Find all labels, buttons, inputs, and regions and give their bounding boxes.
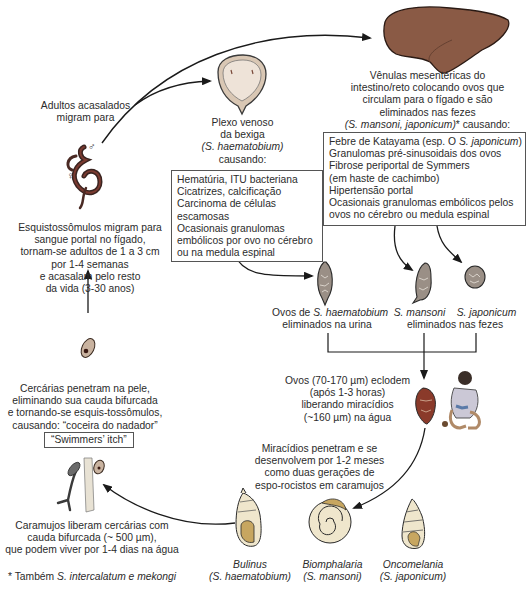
miracidia-line: espo-rocistos em caramujos bbox=[252, 480, 387, 492]
eggs-urine-line: eliminados na urina bbox=[272, 319, 382, 331]
snail-species: (S. haematobium) bbox=[209, 571, 291, 582]
miracidia-line: Miracídios penetram e se bbox=[252, 443, 387, 455]
liver-icon bbox=[384, 7, 509, 73]
schistosomula-line: Esquistossômulos migram para bbox=[12, 222, 168, 234]
footnote-prefix: * Também bbox=[8, 571, 57, 582]
mesenteric-effect-item: Ocasionais granulomas embólicos pelos bbox=[329, 197, 520, 209]
adults-line-2: migram para bbox=[38, 112, 133, 124]
bladder-effects-box: Hematúria, ITU bacteriana Cicatrizes, ca… bbox=[171, 170, 323, 262]
bladder-effect-item: Hematúria, ITU bacteriana bbox=[177, 174, 317, 186]
bladder-effect-item: Cicatrizes, calcificação bbox=[177, 186, 317, 198]
adults-line-1: Adultos acasalados bbox=[38, 100, 133, 112]
mesenteric-line: eliminados nas fezes bbox=[330, 107, 525, 119]
eggs-japonicum-species: S. japonicum bbox=[457, 307, 517, 318]
bladder-causing: causando: bbox=[195, 154, 290, 166]
bladder-effect-item: Ocasionais granulomas bbox=[177, 223, 317, 235]
egg-japonicum-icon bbox=[465, 266, 485, 288]
arrow-adults-to-bladder bbox=[135, 81, 210, 105]
egg-haematobium-icon bbox=[318, 262, 333, 305]
egg-bracket bbox=[328, 333, 476, 352]
schistosomula-line: e acasalam pelo resto bbox=[12, 271, 168, 283]
mesenteric-effects-box: Febre de Katayama (esp. O S. japonicum) … bbox=[323, 132, 526, 226]
female-symbol: ♀ bbox=[67, 170, 75, 182]
bladder-line-2: da bexiga bbox=[195, 129, 290, 141]
katayama-suffix: ) bbox=[518, 136, 521, 147]
hatch-line: liberando miracídios bbox=[280, 399, 415, 411]
arrow-box-to-japonicum-egg bbox=[437, 226, 461, 262]
egg-mansoni-icon bbox=[413, 263, 431, 303]
bladder-effect-item: ou na medula espinal bbox=[177, 247, 317, 259]
bladder-effect-item: embólicos por ovo no cérebro bbox=[177, 235, 317, 247]
miracidia-line: desenvolvem por 1-2 meses bbox=[252, 455, 387, 467]
schistosomula-line: sangue portal no fígado, bbox=[12, 234, 168, 246]
mesenteric-causing: * causando: bbox=[456, 119, 510, 130]
miracidia-label: Miracídios penetram e se desenvolvem por… bbox=[252, 443, 387, 492]
snail-genus: Bulinus bbox=[233, 559, 267, 570]
footnote: * Também S. intercalatum e mekongi bbox=[8, 571, 176, 583]
cercaria-icon bbox=[78, 336, 97, 359]
schistosomula-line: tornam-se adultos de 1 a 3 cm bbox=[12, 246, 168, 258]
mesenteric-effect-item: (em haste de cachimbo) bbox=[329, 173, 520, 185]
hatch-line: (após 1-3 horas) bbox=[280, 387, 415, 399]
arrow-snail-to-cercariae bbox=[104, 485, 235, 524]
mesenteric-effect-item: Hipertensão portal bbox=[329, 185, 520, 197]
bladder-species: (S. haematobium) bbox=[202, 141, 284, 152]
eggs-prefix: Ovos de bbox=[272, 307, 313, 318]
snail-species: (S. japonicum) bbox=[380, 571, 446, 582]
hatch-line: Ovos (70-170 µm) eclodem bbox=[280, 375, 415, 387]
mesenteric-line: intestino/reto colocando ovos que bbox=[330, 82, 525, 94]
cercariae-release-line: cauda bifurcada (~ 500 µm), bbox=[2, 532, 182, 544]
snail-biomphalaria-label: Biomphalaria (S. mansoni) bbox=[295, 559, 370, 583]
skin-and-cercaria-icon bbox=[58, 458, 106, 512]
hatching-egg-icon bbox=[416, 388, 436, 424]
mesenteric-line: Vênulas mesentéricas do bbox=[330, 70, 525, 82]
mesenteric-effect-item: Granulomas pré-sinusoidais dos ovos bbox=[329, 148, 520, 160]
footnote-species: S. intercalatum e mekongi bbox=[57, 571, 176, 582]
adults-migrate-label: Adultos acasalados migram para bbox=[38, 100, 133, 124]
snail-species: (S. mansoni) bbox=[303, 571, 361, 582]
snail-genus: Oncomelania bbox=[383, 559, 444, 570]
schistosomula-line: por 1-4 semanas bbox=[12, 259, 168, 271]
katayama-species: S. japonicum bbox=[459, 136, 519, 147]
snail-biomphalaria-icon bbox=[309, 499, 351, 543]
eggs-mansoni-species: S. mansoni bbox=[394, 307, 446, 318]
bladder-line-1: Plexo venoso bbox=[195, 117, 290, 129]
schistosomula-line: da vida (3-30 anos) bbox=[12, 283, 168, 295]
bladder-effect-item: Carcinoma de células bbox=[177, 198, 317, 210]
miracidia-line: como duas gerações de bbox=[252, 467, 387, 479]
cercariae-penetrate-line: e tornando-se esquis-tossômulos, bbox=[6, 407, 164, 419]
cercariae-penetrate-line: Cercárias penetram na pele, bbox=[6, 383, 164, 395]
mesenteric-species: (S. mansoni, japonicum) bbox=[345, 119, 456, 130]
katayama-prefix: Febre de Katayama (esp. O bbox=[329, 136, 459, 147]
swimmers-itch-badge: “Swimmers’ itch” bbox=[44, 432, 134, 448]
cercariae-penetrate-line: eliminando sua cauda bifurcada bbox=[6, 395, 164, 407]
eggs-feces-line: eliminados nas fezes bbox=[390, 319, 520, 331]
snail-oncomelania-label: Oncomelania (S. japonicum) bbox=[373, 559, 453, 583]
schistosomula-label: Esquistossômulos migram para sangue port… bbox=[12, 222, 168, 295]
mesenteric-label: Vênulas mesentéricas do intestino/reto c… bbox=[330, 70, 525, 131]
snail-bulinus-icon bbox=[236, 488, 261, 546]
snail-genus: Biomphalaria bbox=[302, 559, 362, 570]
snail-bulinus-label: Bulinus (S. haematobium) bbox=[205, 559, 295, 583]
eggs-haematobium-label: Ovos de S. haematobium eliminados na uri… bbox=[272, 307, 382, 331]
cercariae-penetrate-label: Cercárias penetram na pele, eliminando s… bbox=[6, 383, 164, 432]
bladder-label: Plexo venoso da bexiga (S. haematobium) … bbox=[195, 117, 290, 166]
eggs-intestinal-label: S. mansoni S. japonicum eliminados nas f… bbox=[390, 307, 520, 331]
cercariae-release-label: Caramujos liberam cercárias com cauda bi… bbox=[2, 520, 182, 557]
mesenteric-effect-item: Fibrose periportal de Symmers bbox=[329, 160, 520, 172]
cercariae-penetrate-line: causando: “coceira do nadador” bbox=[6, 420, 164, 432]
hatch-label: Ovos (70-170 µm) eclodem (após 1-3 horas… bbox=[280, 375, 415, 424]
male-symbol: ♂ bbox=[88, 141, 96, 153]
mesenteric-effect-item: ovos no cérebro ou medula espinal bbox=[329, 209, 520, 221]
eggs-haematobium-species: S. haematobium bbox=[313, 307, 388, 318]
bladder-icon bbox=[218, 55, 266, 114]
bladder-effect-item: escamosas bbox=[177, 211, 317, 223]
mesenteric-line: circulam para o fígado e são bbox=[330, 94, 525, 106]
cercariae-release-line: Caramujos liberam cercárias com bbox=[2, 520, 182, 532]
cercariae-release-line: que podem viver por 1-4 dias na água bbox=[2, 544, 182, 556]
snail-oncomelania-icon bbox=[402, 499, 425, 549]
hatch-line: (~160 µm) na água bbox=[280, 412, 415, 424]
person-crouching-icon bbox=[442, 371, 479, 428]
arrow-box-to-mansoni-egg bbox=[394, 226, 412, 270]
